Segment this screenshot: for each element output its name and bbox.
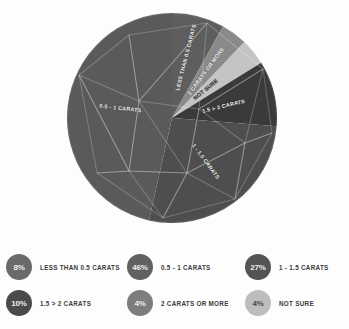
legend-label: 2 CARATS OR MORE <box>161 300 229 307</box>
legend-row: 8% LESS THAN 0.5 CARATS 46% 0.5 - 1 CARA… <box>0 249 349 285</box>
legend-item[interactable]: 10% 1.5 > 2 CARATS <box>0 285 125 321</box>
legend-item[interactable]: 4% NOT SURE <box>243 285 349 321</box>
legend-item[interactable]: 8% LESS THAN 0.5 CARATS <box>0 249 125 285</box>
legend-badge: 4% <box>127 290 153 316</box>
legend-item[interactable]: 4% 2 CARATS OR MORE <box>125 285 243 321</box>
legend: 8% LESS THAN 0.5 CARATS 46% 0.5 - 1 CARA… <box>0 249 349 329</box>
legend-item[interactable]: 46% 0.5 - 1 CARATS <box>125 249 243 285</box>
legend-item[interactable]: 27% 1 - 1.5 CARATS <box>243 249 349 285</box>
legend-badge: 46% <box>127 254 153 280</box>
legend-badge: 10% <box>6 290 32 316</box>
legend-badge: 8% <box>6 254 32 280</box>
legend-label: 1.5 > 2 CARATS <box>40 300 91 307</box>
infographic-root: LESS THAN 0.5 CARATS2 CARATS OR MORENOT … <box>0 0 349 329</box>
legend-row: 10% 1.5 > 2 CARATS 4% 2 CARATS OR MORE 4… <box>0 285 349 321</box>
pie-chart-svg <box>67 13 277 223</box>
legend-badge: 4% <box>245 290 271 316</box>
legend-label: LESS THAN 0.5 CARATS <box>40 264 120 271</box>
legend-label: NOT SURE <box>279 300 314 307</box>
pie-chart: LESS THAN 0.5 CARATS2 CARATS OR MORENOT … <box>67 13 277 223</box>
legend-label: 0.5 - 1 CARATS <box>161 264 211 271</box>
legend-label: 1 - 1.5 CARATS <box>279 264 329 271</box>
legend-badge: 27% <box>245 254 271 280</box>
